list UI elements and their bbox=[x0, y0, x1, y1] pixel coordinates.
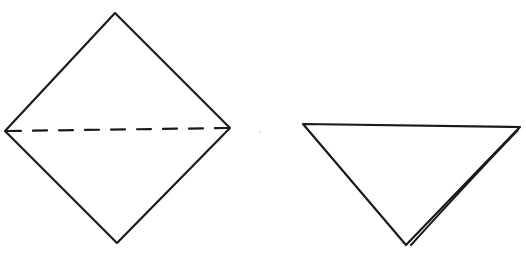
triangle-outline bbox=[303, 124, 520, 245]
step-1-square-diamond bbox=[5, 13, 230, 243]
triangle-layer-edge bbox=[411, 130, 518, 245]
stray-dot bbox=[259, 131, 261, 133]
origami-diagram bbox=[0, 0, 526, 256]
step-2-folded-triangle bbox=[303, 124, 520, 245]
dashed-fold-line bbox=[7, 128, 228, 131]
